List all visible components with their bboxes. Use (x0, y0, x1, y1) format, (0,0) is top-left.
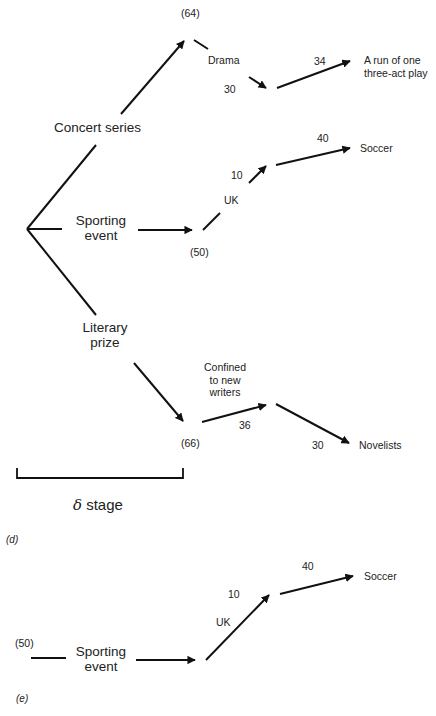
branch-sporting-line-2: event (66, 228, 136, 243)
delta-symbol: δ (73, 496, 82, 514)
branch-sporting-event: Sporting event (66, 213, 136, 243)
branch-literary-line-1: Literary (70, 320, 140, 335)
edge-node66-confined (202, 405, 266, 422)
e-edge-value-1: 10 (228, 588, 240, 600)
outcome-soccer: Soccer (360, 142, 393, 154)
edge-node64-drama (194, 40, 208, 49)
edge-value-sporting-1: 10 (231, 169, 243, 181)
edge-confined-novelists (276, 404, 349, 443)
node-value-sporting: (50) (190, 246, 209, 258)
outcome-novelists: Novelists (359, 439, 402, 451)
e-branch-sporting-event: Sporting event (66, 644, 136, 674)
confined-line-2: to new (200, 374, 250, 387)
edge-concert-node64 (121, 41, 184, 114)
node-value-concert: (64) (181, 7, 200, 19)
edge-node50-uk (203, 213, 220, 230)
e-outcome-soccer: Soccer (364, 570, 397, 582)
stage-bracket (17, 468, 183, 478)
edge-value-literary-1: 36 (239, 419, 251, 431)
e-edge-value-2: 40 (302, 560, 314, 572)
edge-mid-soccer (276, 148, 350, 165)
edge-value-drama-1: 30 (224, 83, 236, 95)
label-uk: UK (224, 194, 239, 206)
edge-literary-node66 (134, 363, 183, 421)
label-drama: Drama (208, 54, 240, 66)
branch-literary-line-2: prize (70, 335, 140, 350)
confined-line-1: Confined (200, 361, 250, 374)
label-confined-to-new-writers: Confined to new writers (200, 361, 250, 399)
panel-d-label: (d) (6, 534, 18, 545)
edge-value-drama-2: 34 (314, 55, 326, 67)
e-edge-mid-soccer (280, 576, 353, 594)
e-branch-line-2: event (66, 659, 136, 674)
e-label-uk: UK (216, 616, 231, 628)
stage-text: stage (86, 496, 123, 513)
branch-concert-series: Concert series (54, 120, 141, 135)
diagram-lines (0, 0, 436, 716)
branch-literary-prize: Literary prize (70, 320, 140, 350)
edge-drama-mid (249, 77, 266, 88)
node-value-literary: (66) (181, 437, 200, 449)
outcome-three-act-play: A run of one three-act play (364, 54, 428, 80)
edge-uk-mid (249, 166, 266, 183)
edge-value-literary-2: 30 (312, 439, 324, 451)
outcome-line-1: A run of one (364, 54, 428, 67)
outcome-line-2: three-act play (364, 67, 428, 80)
confined-line-3: writers (200, 386, 250, 399)
e-branch-line-1: Sporting (66, 644, 136, 659)
e-node-value: (50) (15, 637, 34, 649)
branch-sporting-line-1: Sporting (66, 213, 136, 228)
panel-e-label: (e) (16, 693, 28, 704)
edge-value-sporting-2: 40 (317, 132, 329, 144)
stage-label: δ stage (73, 496, 123, 514)
